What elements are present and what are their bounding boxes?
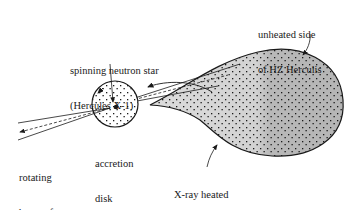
label-unheated-side: unheated side of HZ Herculis <box>258 6 322 87</box>
label-xray-beam: rotating beam of X-rays <box>19 149 53 210</box>
label-neutron-star-line1: spinning neutron star <box>70 65 159 77</box>
label-accretion-line2: disk <box>95 193 133 205</box>
label-heated-line1: X-ray heated <box>174 189 229 201</box>
label-neutron-star-line2: (Hercules X-1) <box>70 100 159 112</box>
label-beam-line1: rotating <box>19 172 53 184</box>
label-unheated-line1: unheated side <box>258 29 322 41</box>
label-neutron-star: spinning neutron star (Hercules X-1) <box>70 42 159 123</box>
label-unheated-line2: of HZ Herculis <box>258 64 322 76</box>
label-accretion-disk: accretion disk <box>95 135 133 210</box>
label-accretion-line1: accretion <box>95 158 133 170</box>
pointer-heated <box>207 145 217 167</box>
label-beam-line2: beam of <box>19 207 53 211</box>
label-heated-side: X-ray heated side of HZ Herculis <box>174 166 229 210</box>
